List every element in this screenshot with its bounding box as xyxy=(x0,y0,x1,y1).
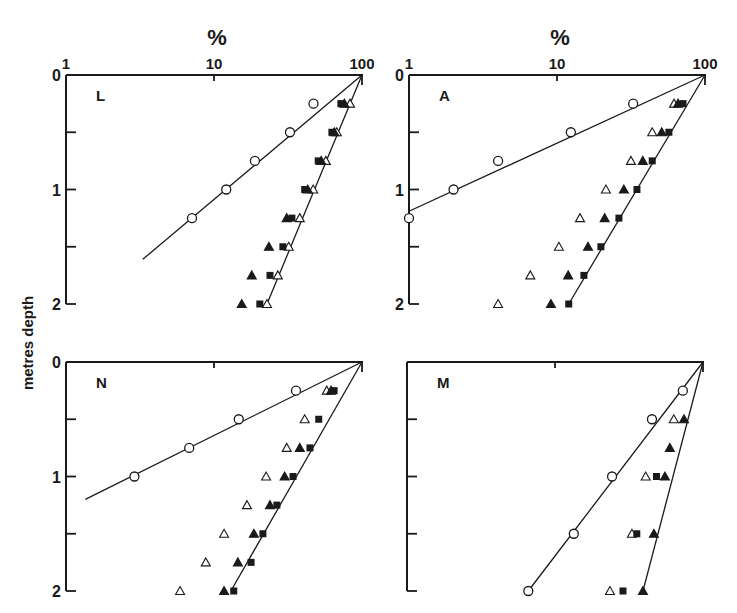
filled-square-marker xyxy=(665,129,672,136)
filled-triangle-marker xyxy=(249,529,258,537)
x-tick-label: 100 xyxy=(349,55,374,72)
open-circle-marker xyxy=(524,587,533,596)
open-circle-marker xyxy=(185,443,194,452)
filled-square-marker xyxy=(565,301,572,308)
filled-square-marker xyxy=(580,272,587,279)
fit-line xyxy=(85,362,362,499)
fit-line xyxy=(143,75,362,259)
x-unit-label: % xyxy=(550,25,570,50)
open-triangle-marker xyxy=(494,300,503,308)
open-triangle-marker xyxy=(273,271,282,279)
panel-N: 012N xyxy=(52,354,363,600)
open-circle-marker xyxy=(285,128,294,137)
open-triangle-marker xyxy=(220,529,229,537)
open-circle-marker xyxy=(291,386,300,395)
open-circle-marker xyxy=(629,99,638,108)
filled-triangle-marker xyxy=(280,472,289,480)
filled-square-marker xyxy=(306,444,313,451)
open-circle-marker xyxy=(250,156,259,165)
open-circle-marker xyxy=(449,185,458,194)
x-tick-label: 100 xyxy=(692,55,717,72)
y-tick-label: 2 xyxy=(52,583,61,600)
filled-triangle-marker xyxy=(266,501,275,509)
open-triangle-marker xyxy=(176,587,185,595)
y-tick-label: 0 xyxy=(52,354,61,371)
filled-square-marker xyxy=(248,559,255,566)
panel-A: 110100%012A xyxy=(395,25,717,313)
panel-letter: L xyxy=(96,87,105,104)
filled-triangle-marker xyxy=(264,242,273,250)
y-tick-label: 0 xyxy=(395,67,404,84)
depth-profile-figure: 110100%012L110100%012A012NM metres depth xyxy=(0,0,737,613)
open-circle-marker xyxy=(234,415,243,424)
filled-square-marker xyxy=(290,473,297,480)
filled-triangle-marker xyxy=(619,185,628,193)
panels-group: 110100%012L110100%012A012NM xyxy=(52,25,717,600)
open-triangle-marker xyxy=(641,472,650,480)
y-tick-label: 2 xyxy=(52,296,61,313)
open-triangle-marker xyxy=(201,558,210,566)
y-tick-label: 1 xyxy=(395,182,404,199)
panel-letter: A xyxy=(439,87,450,104)
filled-triangle-marker xyxy=(660,472,669,480)
x-tick-label: 1 xyxy=(405,55,413,72)
open-triangle-marker xyxy=(554,242,563,250)
x-tick-label: 1 xyxy=(62,55,70,72)
panel-M: M xyxy=(407,362,704,596)
filled-triangle-marker xyxy=(649,529,658,537)
open-triangle-marker xyxy=(669,415,678,423)
open-circle-marker xyxy=(222,185,231,194)
filled-triangle-marker xyxy=(247,271,256,279)
x-tick-label: 10 xyxy=(549,55,566,72)
filled-triangle-marker xyxy=(638,156,647,164)
open-circle-marker xyxy=(566,128,575,137)
x-tick-label: 10 xyxy=(206,55,223,72)
open-triangle-marker xyxy=(605,587,614,595)
fit-line xyxy=(643,362,703,591)
filled-square-marker xyxy=(597,243,604,250)
filled-square-marker xyxy=(653,473,660,480)
filled-square-marker xyxy=(256,301,263,308)
filled-triangle-marker xyxy=(584,242,593,250)
x-unit-label: % xyxy=(207,25,227,50)
open-triangle-marker xyxy=(626,156,635,164)
filled-triangle-marker xyxy=(220,587,229,595)
filled-square-marker xyxy=(633,530,640,537)
filled-square-marker xyxy=(331,387,338,394)
open-triangle-marker xyxy=(262,472,271,480)
y-tick-label: 1 xyxy=(52,469,61,486)
filled-triangle-marker xyxy=(638,587,647,595)
open-circle-marker xyxy=(187,214,196,223)
open-triangle-marker xyxy=(300,415,309,423)
open-triangle-marker xyxy=(648,128,657,136)
panel-letter: N xyxy=(96,374,107,391)
filled-triangle-marker xyxy=(233,558,242,566)
filled-triangle-marker xyxy=(564,271,573,279)
filled-square-marker xyxy=(230,588,237,595)
filled-square-marker xyxy=(315,416,322,423)
open-triangle-marker xyxy=(526,271,535,279)
filled-square-marker xyxy=(259,530,266,537)
filled-square-marker xyxy=(615,215,622,222)
filled-triangle-marker xyxy=(546,300,555,308)
open-circle-marker xyxy=(130,472,139,481)
open-circle-marker xyxy=(309,99,318,108)
y-tick-label: 2 xyxy=(395,296,404,313)
filled-square-marker xyxy=(273,502,280,509)
open-circle-marker xyxy=(608,472,617,481)
open-triangle-marker xyxy=(282,443,291,451)
open-circle-marker xyxy=(647,415,656,424)
open-circle-marker xyxy=(569,529,578,538)
open-triangle-marker xyxy=(601,185,610,193)
filled-triangle-marker xyxy=(600,214,609,222)
filled-square-marker xyxy=(619,588,626,595)
open-triangle-marker xyxy=(575,214,584,222)
filled-triangle-marker xyxy=(657,128,666,136)
panel-letter: M xyxy=(437,374,450,391)
filled-square-marker xyxy=(649,157,656,164)
panel-L: 110100%012L xyxy=(52,25,374,313)
filled-square-marker xyxy=(633,186,640,193)
filled-square-marker xyxy=(679,100,686,107)
filled-square-marker xyxy=(279,243,286,250)
filled-square-marker xyxy=(267,272,274,279)
